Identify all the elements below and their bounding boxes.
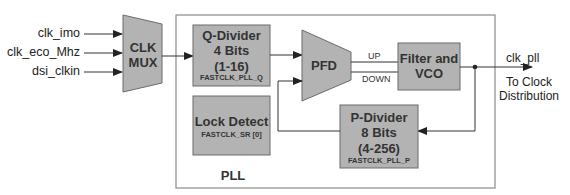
filter-vco-text: Filter and VCO	[398, 51, 460, 82]
mux-line1: CLK	[123, 40, 163, 55]
up-signal-label: UP	[368, 51, 381, 61]
lock-detect-text: Lock Detect FASTCLK_SR [0]	[193, 114, 270, 140]
output-dest-line2: Distribution	[497, 89, 561, 103]
q-divider-range: (1-16)	[193, 59, 270, 74]
filter-vco-line2: VCO	[398, 66, 460, 81]
pll-label: PLL	[213, 168, 253, 183]
p-divider-register: FASTCLK_PLL_P	[340, 157, 418, 166]
p-divider-title: P-Divider	[340, 110, 418, 125]
output-dest-line1: To Clock	[497, 75, 561, 89]
q-divider-text: Q-Divider 4 Bits (1-16) FASTCLK_PLL_Q	[193, 28, 270, 83]
p-divider-bits: 8 Bits	[340, 125, 418, 140]
input-label-dsi-clkin: dsi_clkin	[0, 64, 80, 78]
p-divider-range: (4-256)	[340, 141, 418, 156]
output-destination: To Clock Distribution	[497, 75, 561, 104]
q-divider-register: FASTCLK_PLL_Q	[193, 74, 270, 83]
mux-line2: MUX	[123, 55, 163, 70]
diagram-canvas	[0, 0, 570, 195]
clk-mux-label: CLK MUX	[123, 40, 163, 71]
lock-detect-title: Lock Detect	[193, 114, 270, 129]
input-label-clk-imo: clk_imo	[0, 26, 80, 40]
filter-vco-line1: Filter and	[398, 51, 460, 66]
pfd-label: PFD	[302, 58, 346, 73]
input-label-clk-eco-mhz: clk_eco_Mhz	[0, 45, 80, 59]
output-label-clk-pll: clk_pll	[506, 51, 539, 65]
p-divider-text: P-Divider 8 Bits (4-256) FASTCLK_PLL_P	[340, 110, 418, 166]
down-signal-label: DOWN	[362, 74, 391, 84]
q-divider-title: Q-Divider	[193, 28, 270, 43]
q-divider-bits: 4 Bits	[193, 43, 270, 58]
lock-detect-register: FASTCLK_SR [0]	[193, 131, 270, 140]
